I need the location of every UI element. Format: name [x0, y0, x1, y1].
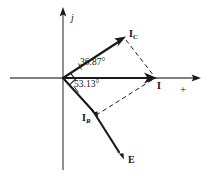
vector-ir-label: IR [82, 113, 91, 125]
vector-i-label-text: I [157, 80, 161, 91]
vector-i-label: I [157, 81, 161, 91]
vector-e-shaft [93, 111, 119, 152]
vector-e [93, 111, 124, 160]
imaginary-axis-label: j [71, 13, 74, 23]
vector-e-label: E [128, 155, 135, 165]
real-axis-label: + [180, 84, 186, 95]
vector-ir-label-subscript: R [86, 117, 91, 125]
vector-ic-label: IC [129, 29, 138, 41]
vector-e-label-text: E [128, 154, 135, 165]
construction-line-ic-to-i [126, 40, 154, 76]
construction-line-i-to-ir [98, 80, 152, 114]
vector-ic-label-subscript: C [133, 33, 138, 41]
phasor-diagram-figure: j IC I + IR E 36.87° 53.13° [0, 0, 211, 178]
vector-ic-arrowhead [114, 37, 126, 47]
angle-annotation-ic: 36.87° [80, 58, 105, 68]
axes-group [10, 7, 201, 170]
angle-annotation-ir: 53.13° [74, 80, 99, 90]
